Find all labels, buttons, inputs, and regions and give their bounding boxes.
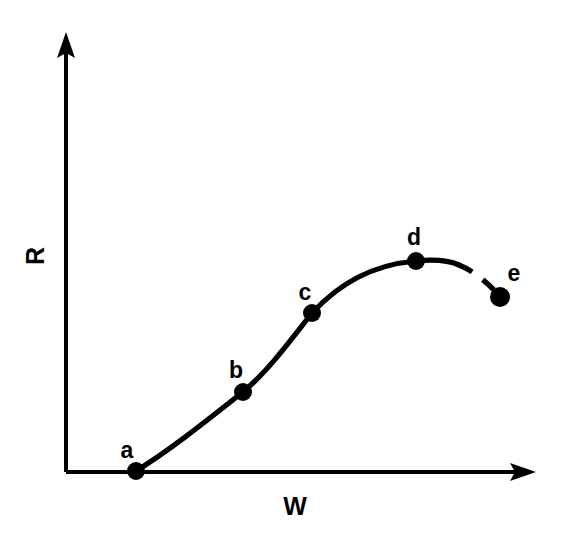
point-label-c: c	[299, 281, 312, 304]
data-point-d[interactable]	[407, 252, 425, 270]
figure-root: R W a b c d e	[0, 0, 562, 543]
point-label-e: e	[508, 262, 521, 285]
data-point-b[interactable]	[234, 383, 252, 401]
y-axis-label: R	[23, 247, 48, 265]
data-point-c[interactable]	[303, 304, 321, 322]
data-point-a[interactable]	[127, 462, 145, 480]
point-label-a: a	[121, 439, 134, 462]
x-axis-label: W	[283, 494, 307, 519]
chart-canvas	[0, 0, 562, 543]
point-label-d: d	[407, 226, 421, 249]
point-label-b: b	[229, 359, 243, 382]
data-point-e[interactable]	[490, 287, 510, 307]
curve-solid-segment	[136, 260, 459, 471]
